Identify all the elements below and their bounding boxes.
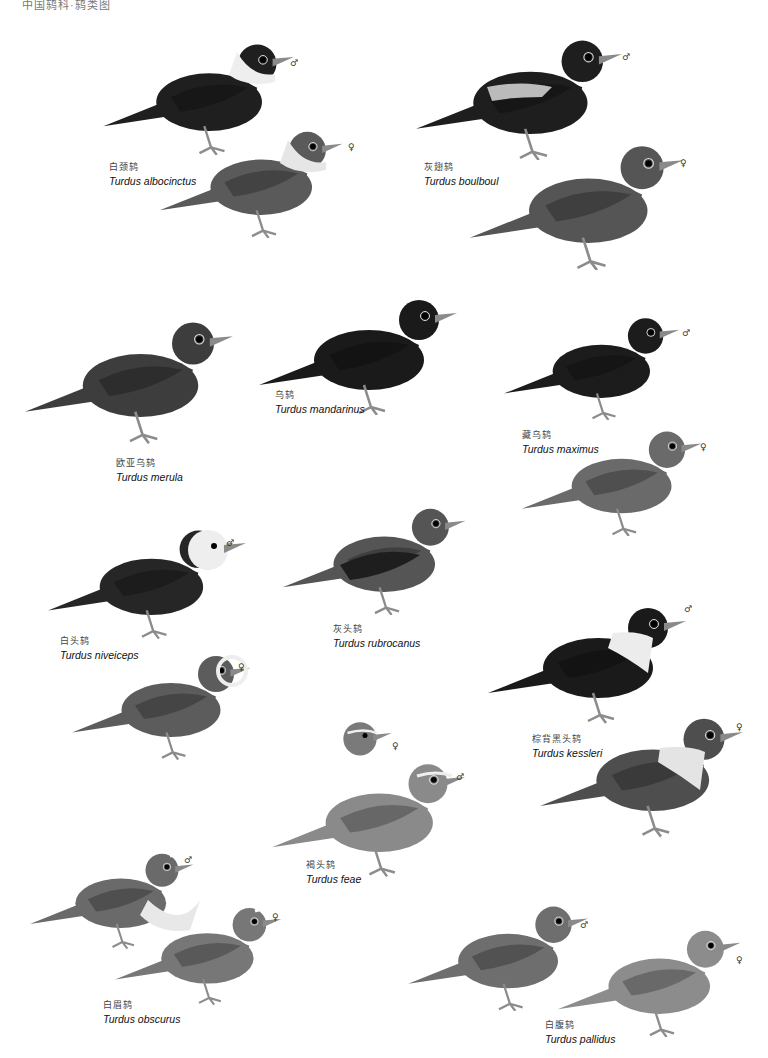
species-label-feae: 褐头鸫 Turdus feae [306,858,361,886]
plate-header: 中国鸫科·鸫类图 [22,0,111,12]
scientific-name: Turdus obscurus [103,1012,180,1026]
species-label-niveiceps: 白头鸫 Turdus niveiceps [60,634,139,662]
scientific-name: Turdus mandarinus [275,402,365,416]
bird-boulboul-female [460,130,695,270]
chinese-name: 灰翅鸫 [424,160,499,174]
female-mark: ♀ [348,142,355,152]
species-label-maximus: 藏乌鸫 Turdus maximus [522,428,599,456]
species-label-rubrocanus: 灰头鸫 Turdus rubrocanus [333,622,420,650]
male-mark: ♂ [184,855,192,865]
chinese-name: 白头鸫 [60,634,139,648]
female-mark: ♀ [680,158,687,168]
chinese-name: 白腹鸫 [545,1018,615,1032]
female-mark: ♀ [238,662,245,672]
bird-kessleri-female [540,690,745,850]
species-label-boulboul: 灰翅鸫 Turdus boulboul [424,160,499,188]
bird-rubrocanus [270,495,480,615]
species-label-albocinctus: 白颈鸫 Turdus albocinctus [109,160,196,188]
species-label-obscurus: 白眉鸫 Turdus obscurus [103,998,180,1026]
bird-feae-male [272,748,467,878]
scientific-name: Turdus rubrocanus [333,636,420,650]
scientific-name: Turdus pallidus [545,1032,615,1046]
female-mark: ♀ [700,442,707,452]
bird-maximus-male [490,305,695,420]
bird-merula [25,305,235,445]
chinese-name: 褐头鸫 [306,858,361,872]
species-label-mandarinus: 乌鸫 Turdus mandarinus [275,388,365,416]
chinese-name: 灰头鸫 [333,622,420,636]
scientific-name: Turdus kessleri [532,746,602,760]
species-label-pallidus: 白腹鸫 Turdus pallidus [545,1018,615,1046]
scientific-name: Turdus merula [116,470,183,484]
scientific-name: Turdus boulboul [424,174,499,188]
species-label-kessleri: 棕背黑头鸫 Turdus kessleri [532,732,602,760]
scientific-name: Turdus maximus [522,442,599,456]
chinese-name: 白眉鸫 [103,998,180,1012]
species-label-merula: 欧亚乌鸫 Turdus merula [116,456,183,484]
chinese-name: 乌鸫 [275,388,365,402]
chinese-name: 白颈鸫 [109,160,196,174]
scientific-name: Turdus niveiceps [60,648,139,662]
chinese-name: 棕背黑头鸫 [532,732,602,746]
bird-obscurus-female [115,885,283,1015]
scientific-name: Turdus feae [306,872,361,886]
male-mark: ♂ [622,52,630,62]
male-mark: ♂ [684,604,692,614]
male-mark: ♂ [682,328,690,338]
female-mark: ♀ [736,722,743,732]
female-mark: ♀ [272,912,279,922]
male-mark: ♂ [290,58,298,68]
bird-niveiceps-male [48,515,236,640]
chinese-name: 欧亚乌鸫 [116,456,183,470]
scientific-name: Turdus albocinctus [109,174,196,188]
male-mark: ♂ [456,772,464,782]
female-mark: ♀ [736,955,743,965]
chinese-name: 藏乌鸫 [522,428,599,442]
male-mark: ♂ [226,538,234,548]
